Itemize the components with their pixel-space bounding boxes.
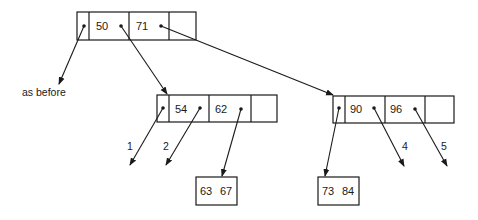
left-child-node: 54 62 [157, 95, 277, 122]
leaf-right-key-1: 73 [322, 185, 334, 197]
pointer-label-5: 5 [441, 140, 447, 152]
left-child-pointer-1-arrow [130, 108, 163, 165]
root-pointer-1-arrow [121, 26, 167, 94]
right-child-key-1: 90 [350, 103, 362, 115]
right-child-pointer-5-arrow [415, 109, 447, 166]
pointer-label-4: 4 [402, 140, 408, 152]
leaf-node-right: 73 84 [318, 177, 359, 205]
right-child-pointer-0-arrow [325, 108, 339, 176]
leaf-node-left: 63 67 [196, 177, 237, 205]
leaf-left-key-2: 67 [220, 185, 232, 197]
as-before-label: as before [22, 86, 66, 98]
left-child-key-2: 62 [215, 103, 227, 115]
root-pointer-2-arrow [161, 26, 333, 95]
left-child-pointer-2-arrow [166, 108, 200, 165]
left-child-pointer-3-arrow [222, 109, 241, 176]
pointer-label-1: 1 [127, 140, 133, 152]
leaf-right-key-2: 84 [342, 185, 354, 197]
pointer-label-2: 2 [163, 140, 169, 152]
left-child-key-1: 54 [175, 103, 187, 115]
root-pointer-0-arrow [59, 26, 84, 84]
right-child-node: 90 96 [333, 96, 454, 123]
right-child-pointer-4-arrow [374, 108, 404, 166]
root-key-2: 71 [136, 20, 148, 32]
leaf-left-key-1: 63 [200, 185, 212, 197]
root-node: 50 71 [77, 12, 196, 40]
btree-diagram: 50 71 as before 54 62 1 2 [0, 0, 478, 220]
right-child-key-2: 96 [390, 103, 402, 115]
root-key-1: 50 [96, 20, 108, 32]
